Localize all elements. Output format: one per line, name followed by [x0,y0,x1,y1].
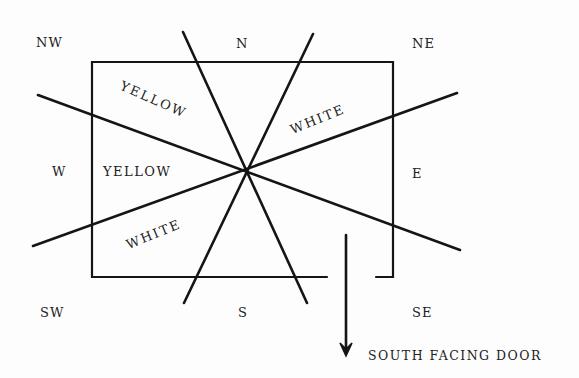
sector-label-w-yellow: YELLOW [103,164,171,179]
direction-e: E [412,166,423,181]
direction-n: N [236,36,248,51]
line-nnw-sse [183,32,307,303]
direction-sw: SW [40,305,64,320]
direction-se: SE [412,305,432,320]
direction-nw: NW [36,35,63,50]
compass-diagram [0,0,579,378]
direction-w: W [52,164,66,179]
line-wnw-ese [38,95,460,250]
direction-ne: NE [412,36,435,51]
door-label: SOUTH FACING DOOR [368,348,542,363]
direction-s: S [238,305,248,320]
